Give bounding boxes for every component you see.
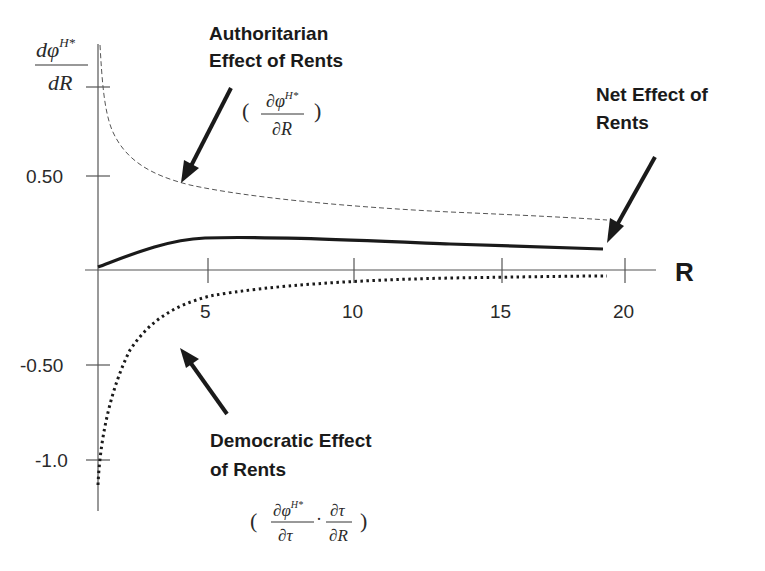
x-tick-label-5: 5 [200, 301, 211, 322]
annotation-democratic: Democratic Effect of Rents ( ∂φH* ∂τ · ∂… [180, 348, 372, 545]
svg-text:∂φH*: ∂φH* [266, 89, 299, 111]
svg-text:(: ( [250, 508, 257, 533]
svg-text:Rents: Rents [596, 112, 649, 133]
svg-text:dφH*: dφH* [36, 35, 76, 62]
svg-text:Effect of Rents: Effect of Rents [209, 50, 343, 71]
svg-text:): ) [360, 508, 367, 533]
arrowhead-icon [181, 160, 199, 183]
y-tick-label-neg0.50: -0.50 [20, 355, 63, 376]
y-tick-label-0.50: 0.50 [26, 166, 63, 187]
x-axis-title: R [675, 257, 694, 287]
arrowhead-icon [180, 348, 199, 368]
arrow-icon [190, 88, 231, 168]
svg-text:∂R: ∂R [329, 526, 348, 545]
svg-text:Democratic Effect: Democratic Effect [210, 430, 372, 451]
y-tick-label-neg1.0: -1.0 [35, 450, 68, 471]
svg-text:Net Effect of: Net Effect of [596, 84, 709, 105]
net-effect-curve [98, 237, 603, 267]
svg-text:·: · [316, 509, 322, 529]
y-axis-label: dφH* dR [35, 35, 88, 95]
svg-text:Authoritarian: Authoritarian [209, 23, 328, 44]
x-tick-label-15: 15 [490, 301, 511, 322]
annotation-net: Net Effect of Rents [596, 84, 709, 243]
svg-text:): ) [314, 98, 321, 123]
arrowhead-icon [607, 218, 624, 243]
arrow-icon [617, 157, 655, 225]
svg-text:∂φH*: ∂φH* [273, 499, 303, 520]
svg-text:∂τ: ∂τ [278, 526, 293, 545]
svg-text:∂τ: ∂τ [330, 501, 345, 520]
chart: dφH* dR 0.50 -0.50 -1.0 5 10 15 20 R Aut… [0, 0, 765, 571]
arrow-icon [190, 362, 227, 414]
svg-text:∂R: ∂R [272, 119, 292, 139]
svg-text:of Rents: of Rents [210, 459, 286, 480]
annotation-authoritarian: Authoritarian Effect of Rents ( ∂φH* ∂R … [181, 23, 343, 183]
svg-text:dR: dR [48, 70, 73, 95]
x-tick-label-20: 20 [613, 301, 634, 322]
svg-text:(: ( [242, 98, 249, 123]
x-tick-label-10: 10 [342, 301, 363, 322]
authoritarian-effect-curve [100, 45, 607, 220]
